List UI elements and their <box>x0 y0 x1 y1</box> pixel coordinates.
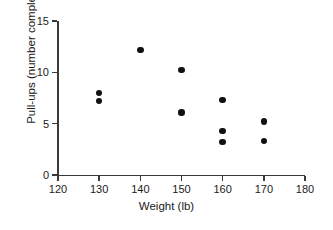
scatter-plot-figure: 120130140150160170180 051015 Weight (lb)… <box>0 0 333 230</box>
x-tick-mark <box>263 176 264 181</box>
x-tick-label: 170 <box>244 183 284 196</box>
y-tick-mark <box>52 123 57 124</box>
x-axis-label: Weight (lb) <box>0 200 333 212</box>
y-tick-label: 0 <box>16 169 49 181</box>
x-tick-label: 160 <box>203 183 243 196</box>
x-tick-mark <box>304 176 305 181</box>
y-axis-label-container: Pull-ups (number completed) <box>21 0 35 140</box>
y-tick-mark <box>52 72 57 73</box>
x-tick-label: 180 <box>285 183 325 196</box>
y-tick-mark <box>52 20 57 21</box>
data-point <box>219 97 225 103</box>
x-tick-mark <box>98 176 99 181</box>
x-tick-label: 150 <box>162 183 202 196</box>
data-point <box>137 47 143 53</box>
x-tick-mark <box>57 176 58 181</box>
x-tick-mark <box>181 176 182 181</box>
x-tick-mark <box>140 176 141 181</box>
data-point <box>261 118 267 124</box>
x-tick-label: 130 <box>79 183 119 196</box>
y-axis-label: Pull-ups (number completed) <box>25 0 37 124</box>
plot-data-area <box>58 21 305 175</box>
x-tick-mark <box>222 176 223 181</box>
y-tick-mark <box>52 174 57 175</box>
data-point <box>219 128 225 134</box>
x-tick-label: 120 <box>38 183 78 196</box>
x-tick-label: 140 <box>120 183 160 196</box>
data-point <box>178 109 184 115</box>
